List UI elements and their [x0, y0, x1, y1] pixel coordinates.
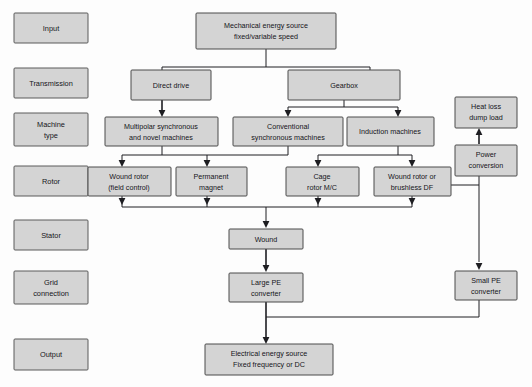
- arrow-wound-rotor-field: [119, 160, 126, 167]
- node-wound-rotor-brushless-df-line1: Wound rotor or: [388, 172, 436, 181]
- node-electrical-energy-source-line1: Electrical energy source: [231, 349, 308, 358]
- stage-item-input[interactable]: Input: [14, 13, 88, 43]
- stage-label-machine-type-line2: type: [44, 131, 58, 140]
- node-cage-rotor-mc-line1: Cage: [313, 172, 330, 181]
- edge-rotor-to-stator-bus: [122, 196, 412, 222]
- arrow-small-pe-converter: [476, 263, 483, 270]
- stage-column: Input Transmission Machine type Rotor St…: [14, 13, 88, 370]
- arrow-large-pe-converter: [263, 265, 270, 272]
- arrow-rotor-drop-wound-field: [119, 198, 126, 205]
- node-mechanical-energy-source-line2: fixed/variable speed: [234, 32, 298, 41]
- node-direct-drive[interactable]: Direct drive: [131, 70, 211, 100]
- arrow-rotor-drop-cage: [315, 198, 322, 205]
- node-multipolar-synchronous-line1: Multipolar synchronous: [124, 122, 198, 131]
- node-multipolar-synchronous[interactable]: Multipolar synchronous and novel machine…: [105, 117, 218, 146]
- node-permanent-magnet-line1: Permanent: [193, 172, 228, 181]
- node-wound-rotor-field-control-line2: (field control): [108, 183, 150, 192]
- node-multipolar-synchronous-line2: and novel machines: [129, 133, 193, 142]
- stage-label-rotor: Rotor: [42, 177, 61, 186]
- node-gearbox-label: Gearbox: [330, 81, 358, 90]
- arrow-wound-rotor-brushless: [409, 160, 416, 167]
- node-cage-rotor-mc-line2: rotor M/C: [307, 183, 337, 192]
- node-wound[interactable]: Wound: [229, 229, 303, 249]
- stage-label-stator: Stator: [41, 231, 61, 240]
- node-conventional-synchronous-line1: Conventional: [267, 122, 309, 131]
- stage-item-stator[interactable]: Stator: [14, 220, 88, 250]
- stage-label-grid-connection-line1: Grid: [44, 278, 58, 287]
- node-small-pe-converter-line1: Small PE: [471, 276, 501, 285]
- arrow-electrical-energy-source: [263, 337, 270, 344]
- node-induction-machines[interactable]: Induction machines: [347, 117, 434, 146]
- stage-item-rotor[interactable]: Rotor: [14, 166, 88, 196]
- node-gearbox[interactable]: Gearbox: [288, 70, 400, 100]
- node-large-pe-converter-line1: Large PE: [251, 278, 281, 287]
- stage-item-machine-type[interactable]: Machine type: [14, 113, 88, 146]
- node-wound-label: Wound: [255, 235, 278, 244]
- arrow-rotor-drop-brushless: [409, 198, 416, 205]
- node-small-pe-converter-line2: converter: [471, 287, 502, 296]
- node-heat-loss-dump-load-line1: Heat loss: [471, 102, 501, 111]
- node-electrical-energy-source-line2: Fixed frequency or DC: [233, 360, 305, 369]
- node-induction-machines-label: Induction machines: [359, 127, 421, 136]
- arrow-permanent-magnet: [204, 160, 211, 167]
- node-direct-drive-label: Direct drive: [153, 81, 189, 90]
- node-heat-loss-dump-load-line2: dump load: [469, 113, 503, 122]
- edge-synchronous-bus: [122, 146, 288, 162]
- arrow-cage-rotor: [315, 160, 322, 167]
- arrow-multipolar: [159, 110, 166, 117]
- node-permanent-magnet[interactable]: Permanent magnet: [176, 167, 247, 196]
- arrow-wound: [263, 221, 270, 228]
- node-permanent-magnet-line2: magnet: [199, 183, 223, 192]
- arrow-conventional-synchronous: [285, 110, 292, 117]
- arrow-heat-loss-dump-load: [476, 128, 483, 135]
- stage-item-grid-connection[interactable]: Grid connection: [14, 271, 88, 304]
- edge-gearbox-to-machines: [288, 100, 398, 112]
- node-conventional-synchronous-line2: synchronous machines: [251, 133, 325, 142]
- node-cage-rotor-mc[interactable]: Cage rotor M/C: [286, 167, 359, 196]
- node-wound-rotor-brushless-df[interactable]: Wound rotor or brushless DF: [374, 167, 451, 196]
- stage-label-output: Output: [40, 350, 62, 359]
- node-mechanical-energy-source-line1: Mechanical energy source: [224, 21, 308, 30]
- stage-label-transmission: Transmission: [29, 79, 73, 88]
- node-power-conversion-line1: Power: [476, 150, 497, 159]
- node-wound-rotor-field-control-line1: Wound rotor: [109, 172, 149, 181]
- stage-item-transmission[interactable]: Transmission: [14, 68, 88, 98]
- stage-item-output[interactable]: Output: [14, 339, 88, 370]
- stage-label-grid-connection-line2: connection: [33, 289, 69, 298]
- stage-label-input: Input: [43, 24, 59, 33]
- edge-induction-bus: [318, 146, 412, 162]
- flowchart-canvas: Input Transmission Machine type Rotor St…: [0, 0, 532, 387]
- node-conventional-synchronous[interactable]: Conventional synchronous machines: [233, 117, 343, 146]
- node-mechanical-energy-source[interactable]: Mechanical energy source fixed/variable …: [196, 13, 336, 49]
- flowchart-svg: Input Transmission Machine type Rotor St…: [0, 0, 532, 387]
- node-wound-rotor-field-control[interactable]: Wound rotor (field control): [88, 167, 171, 196]
- arrow-induction-machines: [395, 110, 402, 117]
- node-large-pe-converter-line2: converter: [251, 289, 282, 298]
- node-electrical-energy-source[interactable]: Electrical energy source Fixed frequency…: [205, 344, 333, 375]
- node-wound-rotor-brushless-df-line2: brushless DF: [391, 183, 434, 192]
- edge-mechanical-to-split: [162, 49, 370, 73]
- node-heat-loss-dump-load[interactable]: Heat loss dump load: [455, 97, 517, 128]
- node-small-pe-converter[interactable]: Small PE converter: [455, 271, 517, 300]
- arrow-rotor-drop-permanent: [204, 198, 211, 205]
- node-power-conversion[interactable]: Power conversion: [455, 145, 517, 176]
- node-large-pe-converter[interactable]: Large PE converter: [229, 273, 303, 302]
- node-power-conversion-line2: conversion: [469, 161, 504, 170]
- stage-label-machine-type-line1: Machine: [37, 120, 65, 129]
